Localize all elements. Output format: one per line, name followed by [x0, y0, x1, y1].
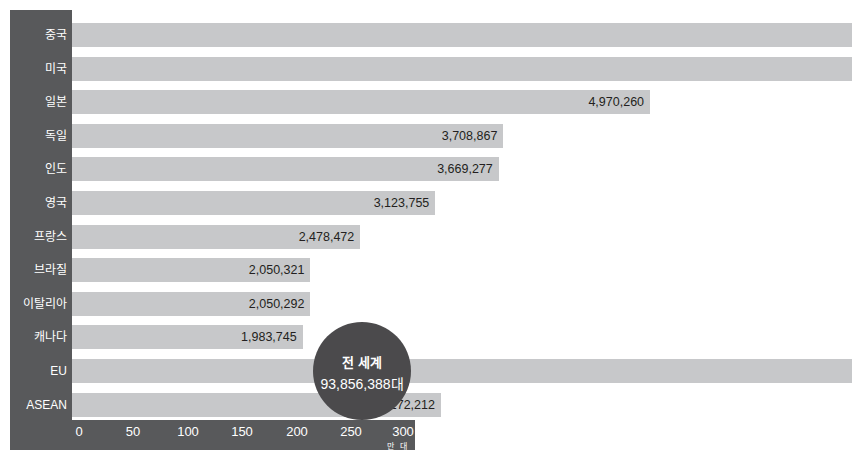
- category-label: 브라질: [10, 258, 67, 282]
- category-label: 미국: [10, 57, 67, 81]
- value-label: 3,123,755: [329, 191, 429, 215]
- category-label: 캐나다: [10, 325, 67, 349]
- bar: [72, 359, 852, 383]
- category-label: 이탈리아: [10, 292, 67, 316]
- bar-row: 이탈리아2,050,292: [10, 292, 415, 316]
- bar-row: 일본4,970,260: [10, 90, 415, 114]
- category-label: EU: [10, 359, 67, 383]
- category-label: 중국: [10, 23, 67, 47]
- x-axis-unit: 만 대: [387, 440, 409, 451]
- bar-row: 프랑스2,478,472: [10, 225, 415, 249]
- world-total-value: 93,856,388대: [313, 373, 411, 393]
- bar: [72, 23, 852, 47]
- bar: [72, 57, 852, 81]
- world-total-bubble: 전 세계 93,856,388대: [313, 322, 411, 420]
- category-label: ASEAN: [10, 393, 67, 417]
- bar-row: 인도3,669,277: [10, 157, 415, 181]
- value-label: 3,669,277: [393, 157, 493, 181]
- x-tick-100: 100: [177, 422, 199, 442]
- x-tick-0: 0: [75, 422, 82, 442]
- value-label: 1,983,745: [197, 325, 297, 349]
- bar-row: 영국3,123,755: [10, 191, 415, 215]
- value-label: 3,708,867: [397, 124, 497, 148]
- chart-frame: 중국28,028,175미국17,865,773일본4,970,260독일3,7…: [10, 10, 415, 450]
- category-label: 영국: [10, 191, 67, 215]
- category-label: 일본: [10, 90, 67, 114]
- value-label: 2,478,472: [254, 225, 354, 249]
- x-tick-250: 250: [340, 422, 362, 442]
- bar-row: 미국17,865,773: [10, 57, 415, 81]
- x-tick-300: 300: [392, 422, 414, 442]
- bar-row: 브라질2,050,321: [10, 258, 415, 282]
- bar-row: 독일3,708,867: [10, 124, 415, 148]
- bar-row: 중국28,028,175: [10, 23, 415, 47]
- category-label: 독일: [10, 124, 67, 148]
- value-label: 2,050,321: [204, 258, 304, 282]
- category-label: 인도: [10, 157, 67, 181]
- category-label: 프랑스: [10, 225, 67, 249]
- value-label: 2,050,292: [204, 292, 304, 316]
- x-tick-200: 200: [286, 422, 308, 442]
- x-tick-150: 150: [231, 422, 253, 442]
- x-tick-50: 50: [126, 422, 140, 442]
- value-label: 4,970,260: [544, 90, 644, 114]
- world-total-label: 전 세계: [313, 352, 411, 371]
